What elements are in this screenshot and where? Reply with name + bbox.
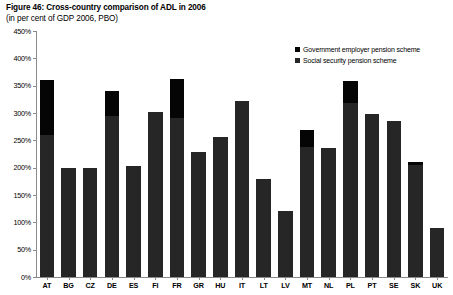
y-axis-tick-label: 450% [0, 27, 31, 36]
bar-segment-government-employer [300, 130, 315, 146]
legend-swatch-government_employer [295, 47, 300, 52]
x-axis-tick [220, 277, 221, 280]
x-axis-tick-label: FI [144, 281, 166, 290]
x-axis-tick [69, 277, 70, 280]
x-axis-tick [285, 277, 286, 280]
legend-label: Government employer pension scheme [303, 44, 420, 55]
x-axis-tick-label: LV [275, 281, 297, 290]
bar-stack [430, 228, 445, 277]
figure-title: Figure 46: Cross-country comparison of A… [6, 3, 206, 12]
x-axis-tick-label: SE [383, 281, 405, 290]
bar-segment-social-security [40, 135, 55, 277]
x-axis-tick [112, 277, 113, 280]
x-axis-tick [307, 277, 308, 280]
x-axis-tick-label: PL [340, 281, 362, 290]
bar-stack [408, 162, 423, 277]
y-axis-tick [33, 140, 36, 141]
x-axis-tick [242, 277, 243, 280]
bar-stack [213, 137, 228, 277]
y-axis-tick [33, 195, 36, 196]
bar-stack [40, 80, 55, 277]
x-axis-tick-label: HU [209, 281, 231, 290]
legend-swatch-social_security [295, 58, 300, 63]
x-axis-tick-label: GR [188, 281, 210, 290]
bar-segment-social-security [365, 114, 380, 277]
x-axis-tick-label: BG [58, 281, 80, 290]
y-axis-tick [33, 222, 36, 223]
y-axis-tick-label: 100% [0, 218, 31, 227]
bar-segment-social-security [235, 101, 250, 277]
x-axis-tick [264, 277, 265, 280]
x-axis-tick-label: LT [253, 281, 275, 290]
x-axis-tick-label: MT [296, 281, 318, 290]
x-axis-tick [372, 277, 373, 280]
bar-segment-social-security [213, 137, 228, 277]
bar-stack [61, 168, 76, 277]
bar-stack [278, 211, 293, 277]
bar-stack [148, 112, 163, 277]
y-axis-tick [33, 58, 36, 59]
y-axis-tick-label: 50% [0, 245, 31, 254]
x-axis-tick [394, 277, 395, 280]
figure-container: Figure 46: Cross-country comparison of A… [0, 0, 453, 295]
y-axis-tick-label: 200% [0, 163, 31, 172]
bar-stack [235, 101, 250, 277]
x-axis-tick-label: NL [318, 281, 340, 290]
bar-stack [343, 81, 358, 277]
bar-segment-social-security [278, 211, 293, 277]
bar-stack [191, 152, 206, 277]
x-axis-tick-label: AT [36, 281, 58, 290]
y-axis-tick-label: 400% [0, 54, 31, 63]
chart-legend: Government employer pension schemeSocial… [295, 44, 420, 66]
bar-stack [321, 148, 336, 277]
y-axis-tick [33, 277, 36, 278]
bar-segment-social-security [170, 118, 185, 277]
figure-subtitle: (in per cent of GDP 2006, PBO) [6, 14, 118, 23]
bar-segment-social-security [321, 148, 336, 277]
x-axis-tick-label: UK [426, 281, 448, 290]
bar-stack [365, 114, 380, 277]
y-axis-tick-label: 150% [0, 191, 31, 200]
x-axis-tick [134, 277, 135, 280]
x-axis-tick-label: DE [101, 281, 123, 290]
bar-segment-social-security [148, 112, 163, 277]
y-axis-tick [33, 168, 36, 169]
bar-segment-social-security [343, 103, 358, 277]
y-axis-tick [33, 31, 36, 32]
y-axis-tick [33, 250, 36, 251]
x-axis-tick [155, 277, 156, 280]
y-axis-tick-label: 300% [0, 109, 31, 118]
bar-segment-government-employer [105, 91, 120, 116]
bar-segment-social-security [61, 168, 76, 277]
bar-stack [256, 179, 271, 277]
x-axis-tick [329, 277, 330, 280]
legend-label: Social security pension scheme [303, 55, 397, 66]
x-axis-tick-label: IT [231, 281, 253, 290]
bar-segment-social-security [256, 179, 271, 277]
legend-item: Government employer pension scheme [295, 44, 420, 55]
y-axis-tick-label: 250% [0, 136, 31, 145]
bar-segment-social-security [430, 228, 445, 277]
bar-segment-social-security [83, 168, 98, 277]
x-axis-tick [177, 277, 178, 280]
y-axis-tick-label: 0% [0, 273, 31, 282]
bar-stack [170, 79, 185, 277]
bar-stack [387, 121, 402, 277]
bar-segment-social-security [191, 152, 206, 277]
x-axis-tick-label: CZ [79, 281, 101, 290]
y-axis-tick [33, 86, 36, 87]
bar-segment-government-employer [170, 79, 185, 118]
y-axis-tick-label: 350% [0, 81, 31, 90]
bar-stack [83, 168, 98, 277]
x-axis-tick-label: SK [405, 281, 427, 290]
x-axis-tick [415, 277, 416, 280]
bar-stack [300, 130, 315, 277]
x-axis-tick-label: PT [361, 281, 383, 290]
x-axis-tick-label: FR [166, 281, 188, 290]
bar-stack [126, 166, 141, 277]
bar-segment-social-security [126, 166, 141, 277]
bar-segment-social-security [408, 165, 423, 277]
x-axis-tick [47, 277, 48, 280]
bar-segment-social-security [387, 121, 402, 277]
y-axis-tick [33, 113, 36, 114]
